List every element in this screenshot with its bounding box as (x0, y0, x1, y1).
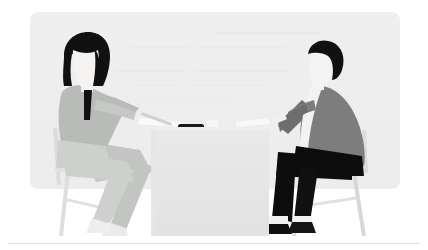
man-back-shoe (288, 222, 316, 233)
meeting-illustration (0, 0, 428, 250)
bottom-divider (8, 243, 420, 244)
table-front (151, 130, 269, 236)
illustration-root: Two people sitting at a table in a meeti… (0, 0, 428, 250)
man-sock-front (268, 216, 288, 225)
table-shade (151, 130, 157, 236)
table (146, 127, 272, 236)
